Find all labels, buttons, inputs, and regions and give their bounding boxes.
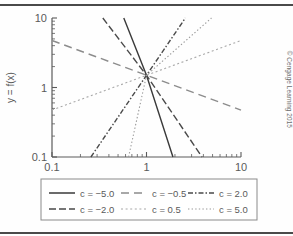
top-divider-rule — [0, 4, 293, 6]
legend-entry-label: c = 2.0 — [219, 188, 248, 199]
bottom-divider-rule — [0, 232, 293, 234]
series-line-1 — [103, 18, 202, 157]
y-tick-label: 0.1 — [32, 151, 47, 163]
series-line-4 — [91, 18, 185, 157]
series-line-5 — [129, 18, 212, 157]
figure-container: 0.11100.1110xy = f(x) c = −5.0c = −0.5c … — [0, 0, 293, 236]
legend-entry-label: c = 5.0 — [219, 204, 248, 215]
y-axis-title: y = f(x) — [5, 72, 16, 103]
y-tick-label: 1 — [41, 82, 47, 94]
y-tick-label: 10 — [35, 12, 47, 24]
axes-group — [52, 18, 241, 157]
axis-labels-group: 0.11100.1110xy = f(x) — [5, 12, 247, 176]
x-tick-label: 1 — [143, 161, 149, 173]
chart-legend: c = −5.0c = −0.5c = 2.0c = −2.0c = 0.5c … — [0, 176, 293, 226]
series-line-0 — [124, 18, 173, 157]
legend-entry-label: c = 0.5 — [152, 204, 181, 215]
legend-entry-label: c = −2.0 — [80, 204, 114, 215]
x-tick-label: 10 — [235, 161, 247, 173]
legend-entry-label: c = −0.5 — [152, 188, 186, 199]
data-series-group — [52, 18, 241, 157]
copyright-credit: © Cengage Learning 2015 — [286, 51, 292, 128]
legend-entry-label: c = −5.0 — [80, 188, 114, 199]
chart-plot-area: 0.11100.1110xy = f(x) — [0, 8, 293, 176]
